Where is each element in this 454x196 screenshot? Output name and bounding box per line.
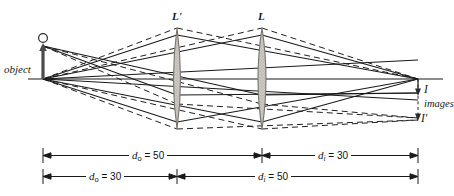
dim-arrow-di30-right bbox=[410, 153, 418, 158]
solid-ray-4 bbox=[262, 35, 418, 79]
lens-second-body bbox=[258, 28, 266, 129]
object-arrow bbox=[39, 34, 48, 79]
dashed-ray-6 bbox=[177, 120, 418, 129]
dashed-ray-8 bbox=[262, 120, 418, 129]
dim-arrow-di50-right bbox=[410, 174, 418, 179]
solid-ray-3 bbox=[43, 35, 262, 79]
dimension-label-di-30: di = 30 bbox=[315, 150, 351, 162]
dashed-ray-2 bbox=[177, 28, 418, 79]
dim-arrow-di50-left bbox=[177, 174, 185, 179]
dim-arrow-di30-left bbox=[262, 153, 270, 158]
dim-arrow-do30-left bbox=[43, 174, 51, 179]
solid-ray-2 bbox=[177, 35, 418, 79]
dimension-label-do-30: do = 30 bbox=[86, 171, 124, 183]
dimension-label-do-50: do = 50 bbox=[129, 150, 167, 162]
dimension-row-1 bbox=[43, 148, 418, 163]
dashed-ray-4 bbox=[262, 28, 418, 79]
solid-ray-1 bbox=[43, 35, 177, 79]
dashed-chief-ray-3 bbox=[43, 46, 262, 104]
lens-primed-label: L' bbox=[172, 11, 182, 22]
solid-outer-ray-1 bbox=[43, 60, 418, 79]
object-point-circle bbox=[39, 34, 48, 43]
lens-primed-body bbox=[174, 28, 181, 129]
image-label: I bbox=[424, 84, 428, 96]
dashed-ray-5 bbox=[43, 79, 177, 129]
image-primed-label: I' bbox=[421, 113, 427, 125]
images-label: images bbox=[424, 99, 454, 110]
lens-primed bbox=[174, 28, 181, 129]
object-label: object bbox=[4, 64, 31, 75]
dim-arrow-do50-left bbox=[43, 153, 51, 158]
lens-second bbox=[258, 28, 266, 129]
lens-label: L bbox=[258, 11, 265, 22]
dimension-label-di-50: di = 50 bbox=[255, 171, 291, 183]
